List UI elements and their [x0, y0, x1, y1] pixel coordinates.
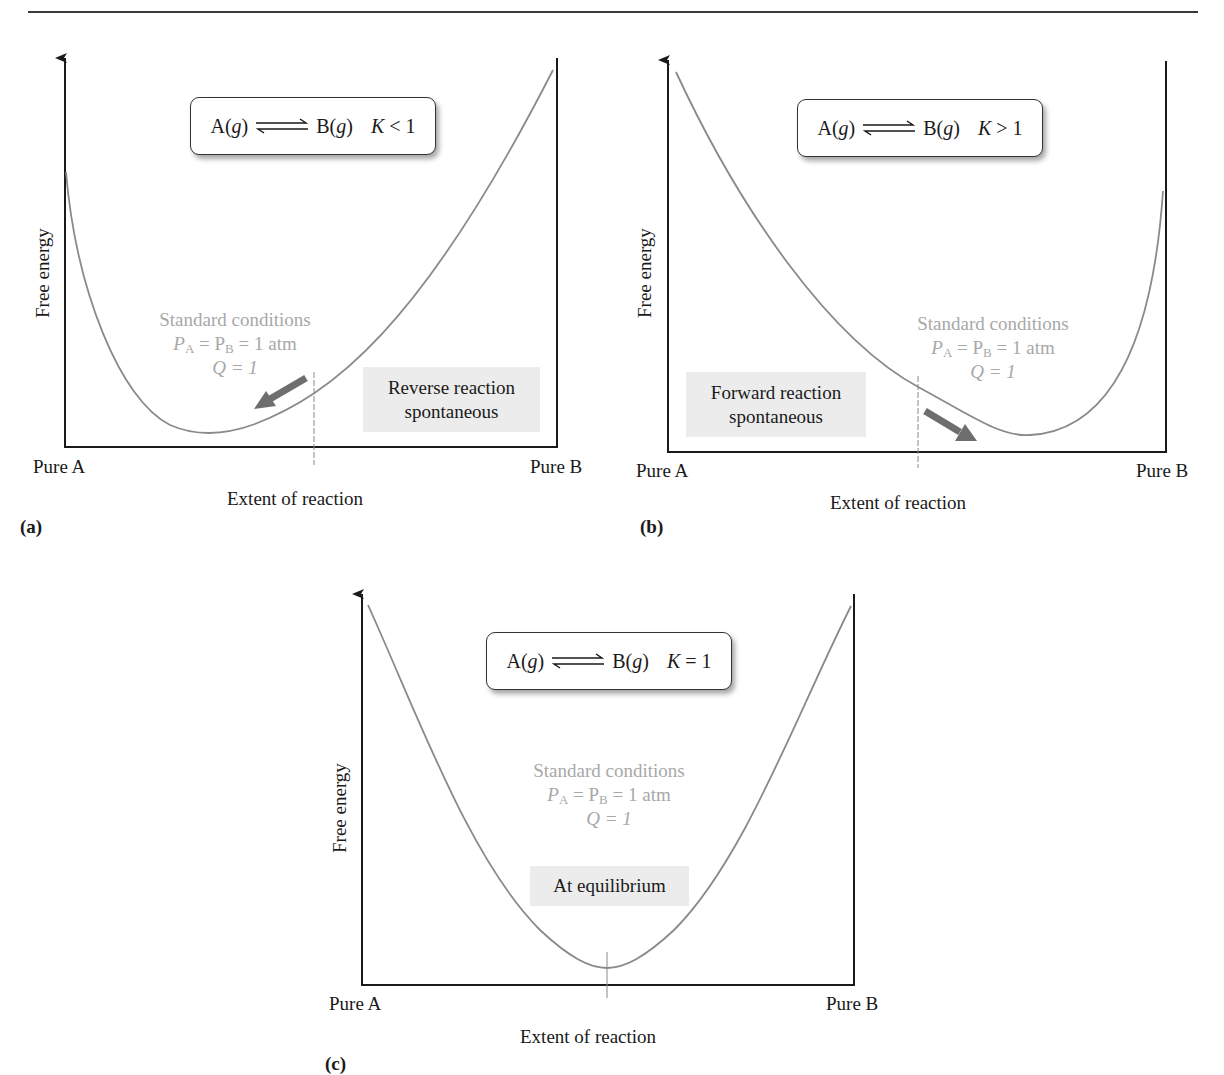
panel-b-y-label: Free energy [634, 228, 656, 318]
panel-a-y-label: Free energy [32, 228, 54, 318]
reactant-label: A( [817, 117, 838, 140]
q-equation: Q = 1 [504, 807, 714, 831]
p-symbol: P [931, 337, 943, 358]
panel-c-x-label: Extent of reaction [520, 1027, 656, 1046]
p-sub-b: B [983, 345, 992, 360]
panel-a-standard-conditions: Standard conditions PA = PB = 1 atm Q = … [130, 308, 340, 380]
panel-c-standard-conditions: Standard conditions PA = PB = 1 atm Q = … [504, 759, 714, 831]
panel-b-label: (b) [640, 516, 663, 538]
q-equation: Q = 1 [888, 360, 1098, 384]
status-line-2: spontaneous [686, 405, 866, 429]
panel-a-equation-box: A(g) B(g) K < 1 [190, 97, 436, 155]
pressure-equation: PA = PB = 1 atm [888, 336, 1098, 360]
reactant-state: g [232, 115, 242, 138]
standard-conditions-title: Standard conditions [888, 312, 1098, 336]
product-label: B( [923, 117, 943, 140]
p-sub-a: A [185, 341, 194, 356]
k-relation: = 1 [685, 650, 711, 673]
panel-a-status-box: Reverse reaction spontaneous [363, 367, 540, 432]
k-relation: > 1 [996, 117, 1022, 140]
p-value: = 1 atm [234, 333, 297, 354]
panel-c-equation-box: A(g) B(g) K = 1 [486, 632, 732, 690]
p-symbol: P [173, 333, 185, 354]
status-line-2: spontaneous [363, 400, 540, 424]
pressure-equation: PA = PB = 1 atm [130, 332, 340, 356]
p-sub-b: B [225, 341, 234, 356]
reactant-close: ) [242, 115, 249, 138]
product-label: B( [316, 115, 336, 138]
reactant-state: g [839, 117, 849, 140]
product-close: ) [346, 115, 353, 138]
product-state: g [632, 650, 642, 673]
pressure-equation: PA = PB = 1 atm [504, 783, 714, 807]
p-sub-a: A [943, 345, 952, 360]
panel-c-status-box: At equilibrium [530, 866, 689, 906]
panel-c-label: (c) [325, 1053, 346, 1075]
k-symbol: K [978, 117, 991, 140]
reactant-state: g [528, 650, 538, 673]
product-close: ) [953, 117, 960, 140]
k-symbol: K [371, 115, 384, 138]
p-value: = 1 atm [992, 337, 1055, 358]
p-sub-b: B [599, 792, 608, 807]
status-line-1: At equilibrium [530, 874, 689, 898]
panel-c-x-tick-pure-b: Pure B [826, 994, 878, 1013]
panel-a-label: (a) [20, 516, 42, 538]
panel-b-x-label: Extent of reaction [830, 493, 966, 512]
status-line-1: Forward reaction [686, 381, 866, 405]
panel-b-status-box: Forward reaction spontaneous [686, 372, 866, 437]
equilibrium-arrows-icon [552, 653, 604, 669]
figure-graphics [0, 0, 1224, 1075]
panel-a-x-tick-pure-b: Pure B [530, 457, 582, 476]
equilibrium-arrows-icon [256, 118, 308, 134]
product-label: B( [612, 650, 632, 673]
reactant-label: A( [506, 650, 527, 673]
panel-b-equation-box: A(g) B(g) K > 1 [797, 99, 1043, 157]
k-symbol: K [667, 650, 680, 673]
p-value: = 1 atm [608, 784, 671, 805]
panel-a-x-label: Extent of reaction [227, 489, 363, 508]
p-mid: = P [952, 337, 983, 358]
panel-c-x-tick-pure-a: Pure A [329, 994, 381, 1013]
reactant-close: ) [849, 117, 856, 140]
q-equation: Q = 1 [130, 356, 340, 380]
standard-conditions-title: Standard conditions [504, 759, 714, 783]
panel-a-direction-arrow-icon [254, 378, 306, 409]
product-state: g [943, 117, 953, 140]
p-mid: = P [194, 333, 225, 354]
reactant-close: ) [538, 650, 545, 673]
panel-c-y-label: Free energy [329, 763, 351, 853]
product-state: g [336, 115, 346, 138]
panel-b-x-tick-pure-a: Pure A [636, 461, 688, 480]
p-sub-a: A [559, 792, 568, 807]
product-close: ) [642, 650, 649, 673]
equilibrium-arrows-icon [863, 120, 915, 136]
standard-conditions-title: Standard conditions [130, 308, 340, 332]
panel-a-x-tick-pure-a: Pure A [33, 457, 85, 476]
k-relation: < 1 [389, 115, 415, 138]
panel-b-standard-conditions: Standard conditions PA = PB = 1 atm Q = … [888, 312, 1098, 384]
p-symbol: P [547, 784, 559, 805]
p-mid: = P [568, 784, 599, 805]
status-line-1: Reverse reaction [363, 376, 540, 400]
reactant-label: A( [210, 115, 231, 138]
panel-b-x-tick-pure-b: Pure B [1136, 461, 1188, 480]
